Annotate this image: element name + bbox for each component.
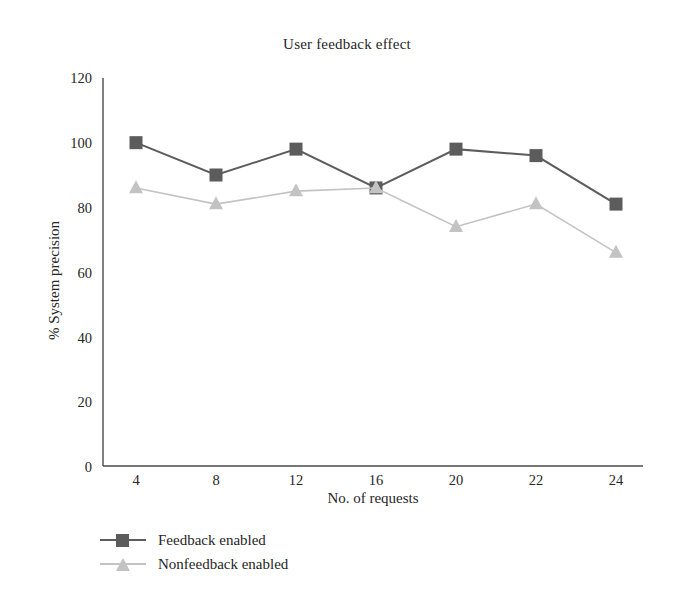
legend-item-feedback-enabled: Feedback enabled [100, 528, 288, 552]
chart-legend: Feedback enabled Nonfeedback enabled [100, 528, 288, 576]
square-marker-icon [116, 534, 129, 547]
x-tick-24: 24 [586, 472, 646, 489]
x-tick-8: 8 [186, 472, 246, 489]
series-layer [129, 136, 623, 258]
triangle-marker-icon [116, 558, 130, 571]
y-tick-20: 20 [46, 394, 92, 411]
data-point-square [210, 169, 223, 182]
x-tick-20: 20 [426, 472, 486, 489]
y-axis-title: % System precision [46, 181, 63, 381]
y-tick-120: 120 [46, 70, 92, 87]
x-tick-12: 12 [266, 472, 326, 489]
x-tick-16: 16 [346, 472, 406, 489]
data-point-triangle [289, 183, 303, 196]
x-tick-4: 4 [106, 472, 166, 489]
legend-key-square [100, 530, 146, 550]
data-point-square [130, 136, 143, 149]
series-line-1 [136, 188, 616, 253]
plot-area [0, 0, 694, 607]
data-point-triangle [129, 180, 143, 193]
data-point-square [530, 149, 543, 162]
data-point-square [290, 143, 303, 156]
series-line-0 [136, 143, 616, 204]
axes [103, 78, 643, 466]
y-tick-0: 0 [46, 459, 92, 476]
x-tick-22: 22 [506, 472, 566, 489]
data-point-triangle [529, 196, 543, 209]
x-axis-title: No. of requests [103, 490, 643, 507]
legend-label-nonfeedback-enabled: Nonfeedback enabled [158, 556, 288, 573]
legend-label-feedback-enabled: Feedback enabled [158, 532, 266, 549]
legend-item-nonfeedback-enabled: Nonfeedback enabled [100, 552, 288, 576]
data-point-square [610, 198, 623, 211]
legend-key-triangle [100, 554, 146, 574]
y-tick-100: 100 [46, 135, 92, 152]
data-point-square [450, 143, 463, 156]
data-point-triangle [609, 245, 623, 258]
chart-figure: User feedback effect 120 100 80 60 40 20… [0, 0, 694, 607]
